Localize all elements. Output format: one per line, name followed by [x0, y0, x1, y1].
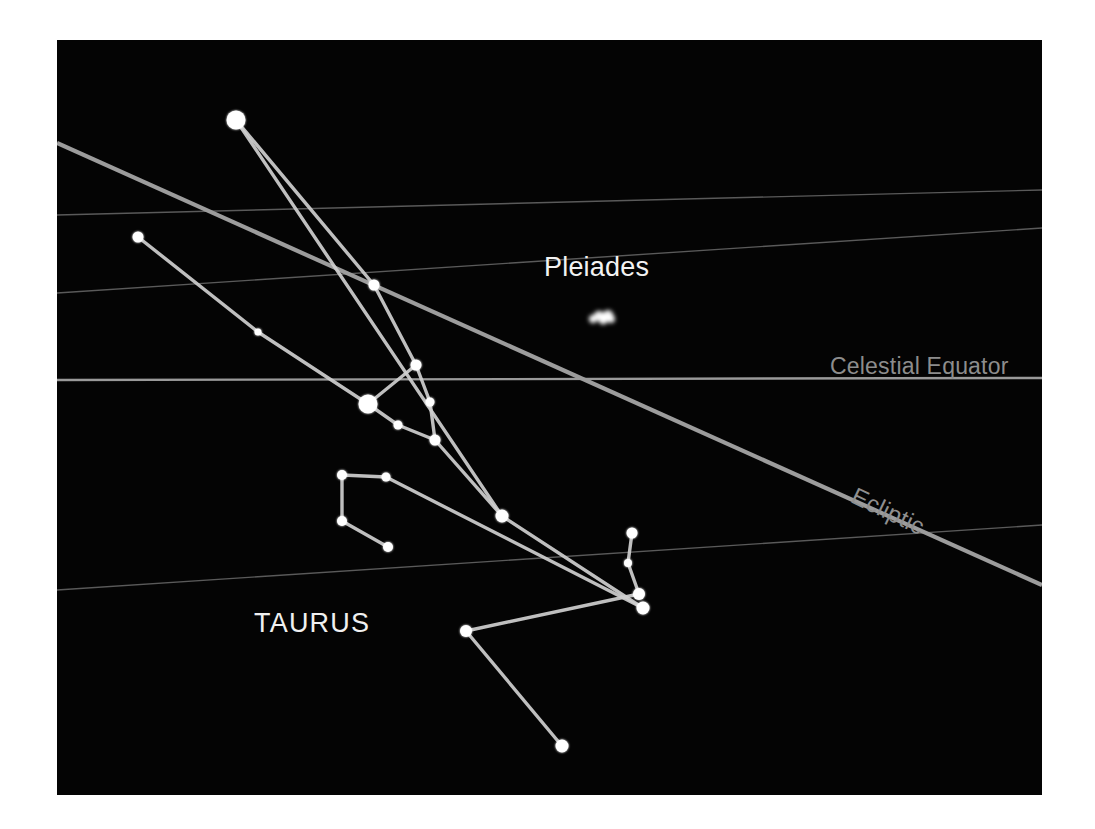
- constellation-line-10: [236, 120, 502, 516]
- reference-grid-lines: [57, 143, 1042, 590]
- star-s19: [460, 625, 472, 637]
- star-s11: [337, 470, 347, 480]
- star-s16: [624, 559, 632, 567]
- cluster-blob-node-5: [599, 317, 606, 324]
- constellation-line-12: [342, 475, 386, 477]
- star-s17: [633, 588, 645, 600]
- constellation-line-3: [258, 332, 368, 404]
- constellation-line-19: [466, 631, 562, 746]
- reference-line-ecliptic: [57, 143, 1042, 585]
- star-s14: [383, 542, 393, 552]
- star-chart-page: Pleiades TAURUS Celestial Equator Eclipt…: [0, 0, 1095, 829]
- star-s7: [426, 398, 435, 407]
- star-s6: [411, 360, 422, 371]
- constellation-line-0: [236, 120, 374, 285]
- constellation-line-18: [466, 594, 639, 631]
- star-s4: [369, 280, 380, 291]
- star-s20: [556, 740, 569, 753]
- sky-panel: Pleiades TAURUS Celestial Equator Eclipt…: [57, 40, 1042, 795]
- star-s2: [133, 232, 144, 243]
- pleiades-cluster-blob: [589, 310, 615, 325]
- constellation-line-2: [138, 237, 258, 332]
- cluster-blob: [589, 310, 615, 325]
- star-s12: [382, 473, 391, 482]
- reference-line-declination-grid-2: [57, 228, 1042, 293]
- star-s5: [359, 395, 378, 414]
- star-field-svg: [57, 40, 1042, 795]
- constellation-line-1: [374, 285, 416, 365]
- reference-line-declination-grid-3: [57, 525, 1042, 590]
- star-s15: [627, 528, 638, 539]
- star-s13: [337, 516, 347, 526]
- star-s9: [430, 435, 441, 446]
- cluster-blob-node-4: [607, 315, 615, 323]
- constellation-line-9: [435, 440, 502, 516]
- star-s3: [255, 329, 262, 336]
- star-s18: [637, 602, 650, 615]
- star-s8: [394, 421, 403, 430]
- star-s10: [496, 510, 509, 523]
- constellation-line-8: [398, 425, 435, 440]
- star-s1: [227, 111, 246, 130]
- constellation-line-14: [342, 521, 388, 547]
- constellation-line-11: [502, 516, 643, 608]
- reference-line-celestial-equator: [57, 378, 1042, 380]
- constellation-line-15: [386, 477, 643, 608]
